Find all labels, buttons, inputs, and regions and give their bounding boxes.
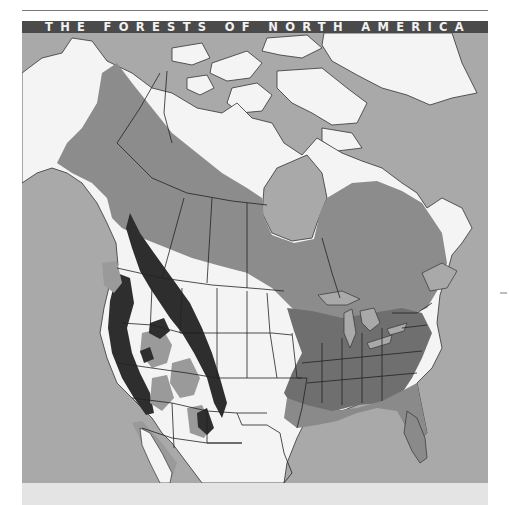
stray-mark [500, 292, 507, 294]
map-graphic [22, 33, 488, 483]
bottom-band [22, 483, 488, 505]
top-rule [22, 10, 488, 11]
forest-map [22, 33, 488, 483]
title-banner: THE FORESTS OF NORTH AMERICA [22, 21, 488, 33]
map-title: THE FORESTS OF NORTH AMERICA [39, 21, 471, 33]
